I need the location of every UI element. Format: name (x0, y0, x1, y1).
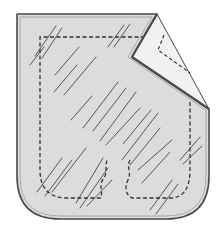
patch-pocket-diagram: Patch pocket with peeled-back corner (0, 0, 224, 231)
